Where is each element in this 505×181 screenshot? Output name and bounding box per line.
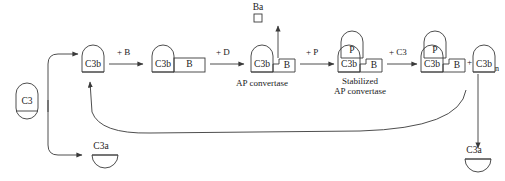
caption-ap-convertase: AP convertase: [214, 78, 310, 89]
node-label-product-properdin: P: [424, 46, 446, 56]
node-label-c3b-b: C3b: [152, 60, 174, 70]
arrow-amplification-feedback: [90, 82, 466, 133]
reaction-label-plus: +: [467, 58, 472, 67]
node-label-ap-convertase-c3b: C3b: [251, 60, 273, 70]
reaction-label-add-p: + P: [306, 48, 318, 57]
diagram-vector-layer: [0, 0, 505, 181]
node-label-c3b-initial: C3b: [82, 60, 104, 70]
node-label-product-b: B: [449, 61, 465, 71]
node-label-ba: Ba: [251, 3, 265, 13]
reaction-label-add-c3: + C3: [389, 48, 407, 57]
node-label-c3a-right: C3a: [461, 146, 487, 156]
arrow-c3-to-c3a: [48, 104, 82, 155]
caption-stabilized-line1: Stabilized: [312, 76, 408, 87]
node-ba-shape: [254, 14, 262, 22]
node-label-factor-b: B: [174, 60, 205, 70]
arrow-c3-to-c3b: [48, 54, 78, 104]
node-c3a-left-shape: [92, 155, 118, 168]
node-label-c3b-n: C3b: [473, 60, 495, 70]
node-label-ap-convertase-b: B: [279, 61, 295, 71]
node-label-c3: C3: [16, 97, 38, 107]
node-label-c3b-n-subscript: n: [495, 65, 503, 73]
node-label-stabilized-c3b: C3b: [338, 60, 360, 70]
complement-pathway-diagram: C3 C3b C3a C3b B C3b B AP convertase Ba …: [0, 0, 505, 181]
node-c3a-right-shape: [465, 159, 491, 172]
caption-stabilized-line2: AP convertase: [312, 86, 408, 97]
reaction-label-add-b: + B: [117, 48, 130, 57]
node-label-c3a-left: C3a: [88, 142, 114, 152]
node-label-properdin-p: P: [341, 46, 363, 56]
node-label-product-c3b: C3b: [421, 60, 443, 70]
reaction-label-add-d: + D: [216, 48, 230, 57]
node-label-stabilized-b: B: [366, 61, 382, 71]
